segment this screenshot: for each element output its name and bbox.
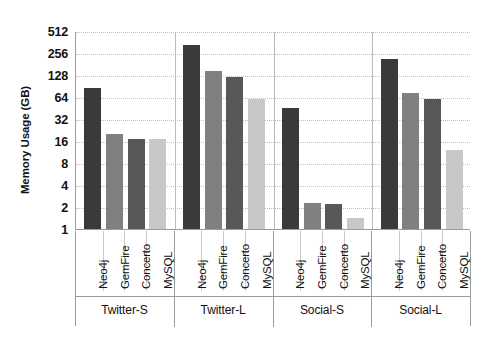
x-axis-group-labels: Twitter-STwitter-LSocial-SSocial-L bbox=[75, 296, 470, 326]
x-axis-category-label: Neo4j bbox=[196, 260, 208, 289]
x-axis-category-label: GemFire bbox=[415, 246, 427, 289]
x-axis-group-label: Social-S bbox=[273, 303, 372, 317]
y-axis-tick-label: 8 bbox=[34, 157, 68, 171]
y-axis-tick-label: 4 bbox=[34, 179, 68, 193]
bar bbox=[381, 59, 398, 229]
bar bbox=[128, 139, 145, 229]
bar bbox=[248, 99, 265, 229]
bar bbox=[325, 204, 342, 229]
y-axis-title: Memory Usage (GB) bbox=[14, 60, 36, 220]
group-separator bbox=[274, 32, 275, 229]
bar bbox=[402, 93, 419, 229]
bar bbox=[106, 134, 123, 229]
x-axis-group-label: Social-L bbox=[371, 303, 470, 317]
x-axis-right-edge bbox=[470, 231, 471, 326]
x-axis-category-label: Concerto bbox=[140, 244, 152, 289]
y-axis-tick-label: 16 bbox=[34, 135, 68, 149]
x-axis-category-label: Neo4j bbox=[393, 260, 405, 289]
x-axis-group-label: Twitter-S bbox=[75, 303, 174, 317]
bar bbox=[446, 150, 463, 229]
x-axis-category-label: GemFire bbox=[316, 246, 328, 289]
x-axis-group-label: Twitter-L bbox=[174, 303, 273, 317]
y-axis-tick-label: 128 bbox=[34, 69, 68, 83]
bar bbox=[205, 71, 222, 229]
y-axis-tick-label: 2 bbox=[34, 201, 68, 215]
x-axis-category-label: Neo4j bbox=[97, 260, 109, 289]
y-axis-tick-label: 512 bbox=[34, 25, 68, 39]
plot-area bbox=[75, 32, 470, 230]
x-axis-category-label: Concerto bbox=[338, 244, 350, 289]
y-axis-tick-label: 64 bbox=[34, 91, 68, 105]
bar bbox=[282, 108, 299, 229]
x-axis-category-label: MySQL bbox=[162, 252, 174, 289]
bar bbox=[84, 88, 101, 229]
bar bbox=[304, 203, 321, 229]
x-axis-category-label: GemFire bbox=[119, 246, 131, 289]
x-axis-category-label: MySQL bbox=[261, 252, 273, 289]
memory-usage-bar-chart: Memory Usage (GB) 1248163264128256512 Ne… bbox=[0, 0, 490, 356]
y-axis-tick-label: 32 bbox=[34, 113, 68, 127]
x-axis-category-label: Concerto bbox=[436, 244, 448, 289]
x-axis-category-label: Neo4j bbox=[294, 260, 306, 289]
y-axis-tick-label: 1 bbox=[34, 223, 68, 237]
x-axis-category-label: Concerto bbox=[239, 244, 251, 289]
bar bbox=[149, 139, 166, 229]
x-axis-category-label: GemFire bbox=[217, 246, 229, 289]
x-axis-category-labels: Neo4jGemFireConcertoMySQLNeo4jGemFireCon… bbox=[75, 231, 470, 293]
bar bbox=[183, 45, 200, 229]
group-separator bbox=[175, 32, 176, 229]
bar bbox=[347, 218, 364, 229]
bar bbox=[226, 77, 243, 229]
x-axis-category-label: MySQL bbox=[458, 252, 470, 289]
bar bbox=[424, 99, 441, 229]
x-axis-category-label: MySQL bbox=[359, 252, 371, 289]
y-axis-tick-label: 256 bbox=[34, 47, 68, 61]
group-separator bbox=[372, 32, 373, 229]
